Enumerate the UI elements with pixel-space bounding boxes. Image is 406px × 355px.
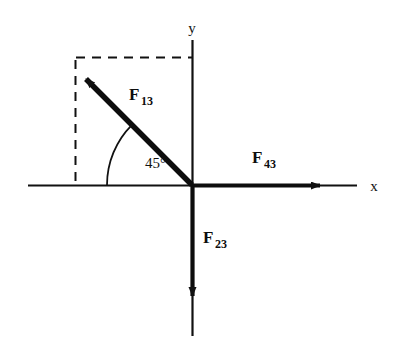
force-label-f23-symbol: F [203, 228, 213, 247]
force-label-f43-subscript: 43 [264, 157, 276, 171]
force-diagram-svg: x y 45° F 13 F 43 F 23 [0, 0, 406, 355]
force-label-f43: F 43 [252, 148, 276, 171]
force-label-f13: F 13 [129, 85, 153, 108]
force-label-f13-symbol: F [129, 85, 139, 104]
angle-label-45: 45° [145, 155, 166, 171]
y-axis-label: y [188, 20, 196, 36]
force-diagram-container: x y 45° F 13 F 43 F 23 [0, 0, 406, 355]
force-label-f13-subscript: 13 [141, 94, 153, 108]
force-label-f23: F 23 [203, 228, 227, 251]
x-axis-label: x [370, 178, 378, 194]
force-label-f23-subscript: 23 [215, 237, 227, 251]
force-label-f43-symbol: F [252, 148, 262, 167]
angle-arc-45 [107, 125, 132, 185]
